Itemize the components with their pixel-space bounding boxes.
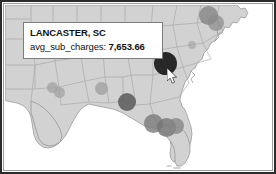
- map-tooltip: LANCASTER, SC avg_sub_charges: 7,653.66: [23, 22, 163, 59]
- tooltip-metric-value: 7,653.66: [109, 41, 145, 52]
- map-marker-ms-central[interactable]: [95, 82, 108, 95]
- map-marker-gulf-al[interactable]: [118, 93, 136, 111]
- map-marker-fl-east-coast[interactable]: [168, 118, 184, 134]
- map-screenshot: LANCASTER, SC avg_sub_charges: 7,653.66: [0, 0, 276, 174]
- tooltip-metric-label: avg_sub_charges:: [30, 41, 106, 52]
- map-marker-va-md-b[interactable]: [208, 15, 224, 31]
- map-marker-tx-north-b[interactable]: [54, 87, 65, 98]
- map-marker-nc-piedmont[interactable]: [188, 41, 196, 49]
- map-viewport[interactable]: LANCASTER, SC avg_sub_charges: 7,653.66: [5, 5, 271, 169]
- tooltip-metric-row: avg_sub_charges: 7,653.66: [30, 40, 156, 53]
- tooltip-title: LANCASTER, SC: [30, 27, 156, 39]
